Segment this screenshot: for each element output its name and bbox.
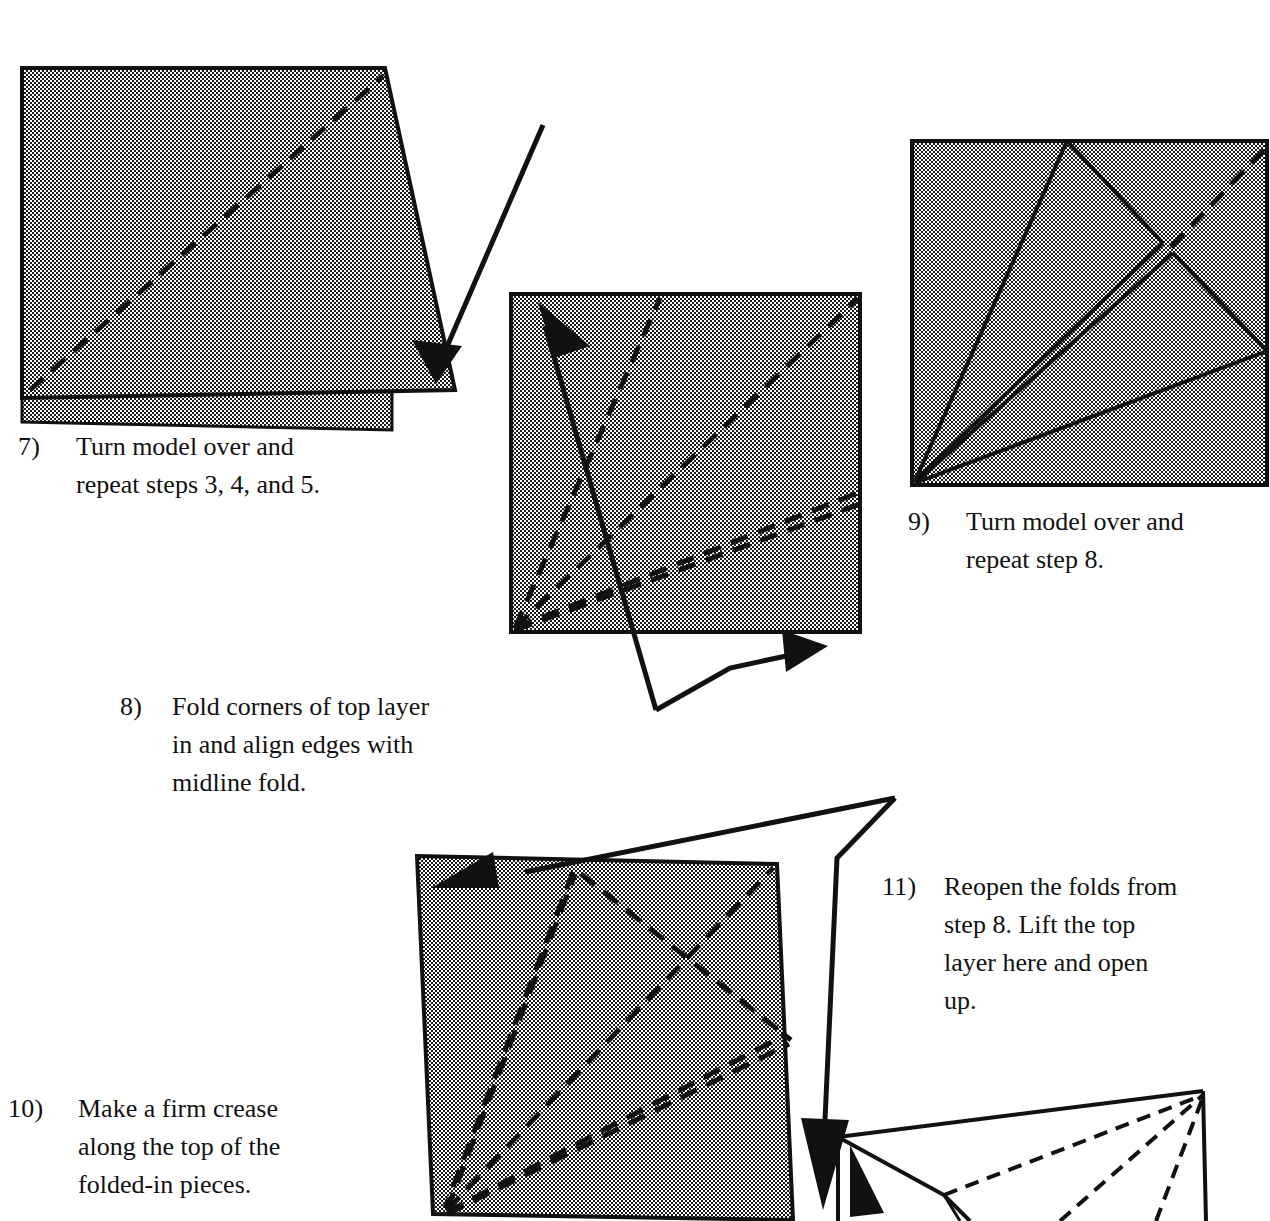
paper-square: [417, 856, 793, 1220]
step-10-instruction: 10) Make a firm crease along the top of …: [8, 1090, 408, 1204]
step-11-instruction: 11) Reopen the folds from step 8. Lift t…: [882, 868, 1262, 1020]
step-8-line-2: in and align edges with: [172, 726, 462, 764]
step-8-text: Fold corners of top layer in and align e…: [172, 688, 462, 802]
step-10-line-2: along the top of the: [78, 1128, 358, 1166]
step-8-line-3: midline fold.: [172, 764, 462, 802]
step-10-line-1: Make a firm crease: [78, 1090, 358, 1128]
step-9-number: 9): [908, 503, 966, 541]
figure-7-diagram: [0, 40, 480, 430]
step-10-text: Make a firm crease along the top of the …: [78, 1090, 358, 1204]
step-7-line-2: repeat steps 3, 4, and 5.: [76, 466, 376, 504]
step-11-text: Reopen the folds from step 8. Lift the t…: [944, 868, 1234, 1020]
step-10-number: 10): [8, 1090, 78, 1128]
step-7-instruction: 7) Turn model over and repeat steps 3, 4…: [18, 428, 448, 504]
step-7-text: Turn model over and repeat steps 3, 4, a…: [76, 428, 376, 504]
step-11-line-2: step 8. Lift the top: [944, 906, 1234, 944]
step-7-number: 7): [18, 428, 76, 466]
step-11-line-3: layer here and open: [944, 944, 1234, 982]
step-10-line-3: folded-in pieces.: [78, 1166, 358, 1204]
step-9-line-1: Turn model over and: [966, 503, 1258, 541]
step-9-line-2: repeat step 8.: [966, 541, 1258, 579]
hidden-crease-1: [944, 1095, 1203, 1195]
figure-10-diagram: [395, 790, 865, 1221]
hidden-crease-2: [1060, 1095, 1203, 1221]
step-9-text: Turn model over and repeat step 8.: [966, 503, 1258, 579]
step-7-line-1: Turn model over and: [76, 428, 376, 466]
step-9-instruction: 9) Turn model over and repeat step 8.: [908, 503, 1268, 579]
figure-11-diagram: [820, 1005, 1267, 1221]
fold-arrow-up-right: [656, 630, 828, 710]
step-11-line-4: up.: [944, 982, 1234, 1020]
hidden-crease-3: [1156, 1097, 1203, 1221]
figure-9-diagram: [895, 125, 1270, 500]
step-8-number: 8): [120, 688, 172, 726]
model-apex-edge: [1203, 1091, 1206, 1221]
step-11-number: 11): [882, 868, 944, 906]
lift-arrowhead: [850, 1145, 884, 1217]
step-8-instruction: 8) Fold corners of top layer in and alig…: [120, 688, 520, 802]
step-11-line-1: Reopen the folds from: [944, 868, 1234, 906]
paper-front-layer: [22, 68, 455, 398]
step-8-line-1: Fold corners of top layer: [172, 688, 462, 726]
